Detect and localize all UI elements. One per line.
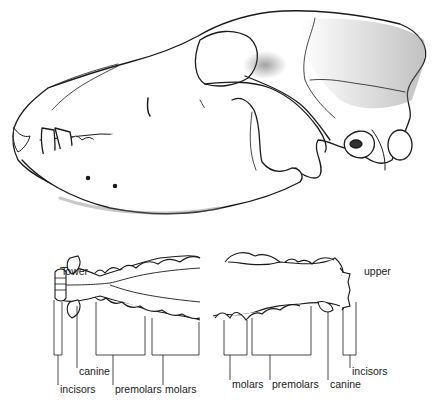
lower-label-premolars: premolars xyxy=(115,384,162,395)
upper-label-incisors: incisors xyxy=(352,366,388,377)
dog-skull-figure: lower canine incisors premolars molars u… xyxy=(0,0,435,403)
lower-label-canine: canine xyxy=(79,366,110,377)
upper-dental-arcade xyxy=(213,253,356,380)
lower-label-molars: molars xyxy=(165,384,197,395)
upper-label-canine: canine xyxy=(330,379,361,390)
skull-lateral-drawing xyxy=(0,0,435,403)
upper-label-molars: molars xyxy=(232,379,264,390)
lower-label-incisors: incisors xyxy=(60,384,96,395)
upper-label-premolars: premolars xyxy=(272,379,319,390)
lower-jaw-title: lower xyxy=(63,266,88,277)
upper-jaw-title: upper xyxy=(364,266,391,277)
